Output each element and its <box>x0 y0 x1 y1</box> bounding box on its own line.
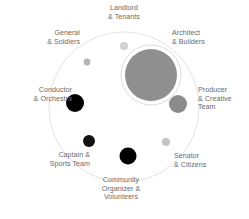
bubble-senator-citizens[interactable] <box>162 138 170 146</box>
label-producer-creative-team: Producer & Creative Team <box>198 86 248 112</box>
bubble-community-organizer-volunteers[interactable] <box>120 148 137 165</box>
label-captain-sports-team: Captain & Sports Team <box>16 151 90 168</box>
label-architect-builders: Architect & Builders <box>172 29 242 46</box>
label-senator-citizens: Senator & Citizens <box>174 152 240 169</box>
bubble-captain-sports-team[interactable] <box>83 135 95 147</box>
label-community-organizer-volunteers: Community Organizer & Volunteers <box>82 176 160 202</box>
label-landlord-tenants: Landlord & Tenants <box>86 4 162 21</box>
bubble-producer-creative-team[interactable] <box>169 95 187 113</box>
bubble-landlord-tenants[interactable] <box>120 42 128 50</box>
label-conductor-orchestra: Conductor & Orchestra <box>4 86 72 103</box>
bubble-general-soldiers[interactable] <box>84 59 91 66</box>
bubble-diagram: Landlord & Tenants General & Soldiers Ar… <box>0 0 249 219</box>
bubble-architect-builders[interactable] <box>125 49 177 101</box>
label-general-soldiers: General & Soldiers <box>14 29 80 46</box>
